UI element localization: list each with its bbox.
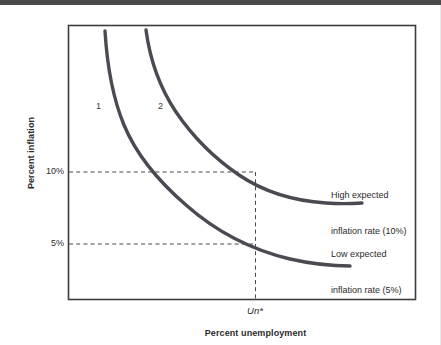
curve-1-number-label: 1 (96, 101, 101, 111)
annotation-low-line-1: Low expected (331, 248, 402, 260)
annotation-low-line-2: inflation rate (5%) (331, 284, 402, 296)
phillips-curve-figure: Percent inflation Percent unemployment 1… (0, 0, 441, 345)
annotation-high-line-1: High expected (331, 189, 407, 201)
y-tick-label-10-percent: 10% (20, 166, 64, 176)
x-tick-label-natural-rate: Un* (225, 305, 285, 316)
y-tick-label-5-percent: 5% (20, 238, 64, 248)
annotation-low-expected-inflation: Low expected inflation rate (5%) (331, 224, 402, 320)
curve-2-number-label: 2 (158, 101, 163, 111)
y-axis-title: Percent inflation (26, 93, 36, 213)
x-axis-title: Percent unemployment (138, 328, 373, 338)
